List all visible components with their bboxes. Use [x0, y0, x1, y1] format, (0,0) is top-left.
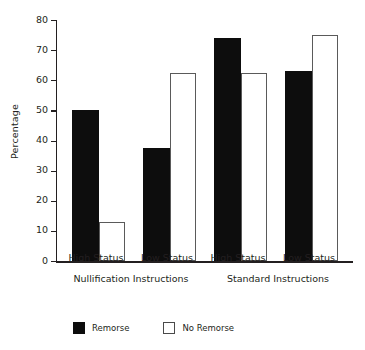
y-tick-label-50: 50 [36, 104, 48, 116]
y-tick-50: 50 [51, 110, 56, 111]
y-tick-label-10: 10 [36, 224, 48, 236]
chart-legend: Remorse No Remorse [73, 322, 234, 334]
y-tick-10: 10 [51, 231, 56, 232]
y-tick-label-0: 0 [42, 255, 48, 267]
y-tick-70: 70 [51, 50, 56, 51]
legend-item-no-remorse: No Remorse [163, 322, 234, 334]
bar-remorse-standard-high-status [214, 38, 241, 261]
category-label-standard-high-status: High Status [200, 252, 276, 263]
bar-remorse-nullification-low-status [143, 148, 170, 261]
category-label-nullification-low-status: Low Status [129, 252, 205, 263]
y-tick-30: 30 [51, 171, 56, 172]
bar-no-remorse-standard-low-status [312, 35, 338, 261]
y-tick-0: 0 [51, 261, 56, 262]
bar-chart-figure: Percentage 80 70 60 50 40 30 20 10 0 [0, 0, 365, 350]
category-label-standard-low-status: Low Status [271, 252, 347, 263]
legend-swatch-no-remorse-icon [163, 322, 175, 334]
group-label-standard-instructions: Standard Instructions [203, 273, 353, 284]
y-tick-label-60: 60 [36, 74, 48, 86]
y-tick-label-30: 30 [36, 164, 48, 176]
y-tick-label-70: 70 [36, 44, 48, 56]
y-axis-line [56, 20, 57, 261]
legend-label-remorse: Remorse [92, 323, 129, 333]
bar-no-remorse-standard-high-status [241, 73, 267, 261]
legend-label-no-remorse: No Remorse [182, 323, 234, 333]
y-tick-80: 80 [51, 20, 56, 21]
y-tick-20: 20 [51, 201, 56, 202]
y-tick-label-80: 80 [36, 14, 48, 26]
group-label-nullification-instructions: Nullification Instructions [56, 273, 206, 284]
plot-area: 80 70 60 50 40 30 20 10 0 [56, 20, 353, 261]
bar-remorse-standard-low-status [285, 71, 312, 261]
y-tick-label-20: 20 [36, 194, 48, 206]
y-tick-40: 40 [51, 141, 56, 142]
y-tick-label-40: 40 [36, 134, 48, 146]
y-tick-60: 60 [51, 80, 56, 81]
bar-no-remorse-nullification-low-status [170, 73, 196, 261]
legend-item-remorse: Remorse [73, 322, 129, 334]
y-axis-title: Percentage [9, 92, 20, 172]
category-label-nullification-high-status: High Status [58, 252, 134, 263]
legend-swatch-remorse-icon [73, 322, 85, 334]
bar-remorse-nullification-high-status [72, 110, 99, 261]
